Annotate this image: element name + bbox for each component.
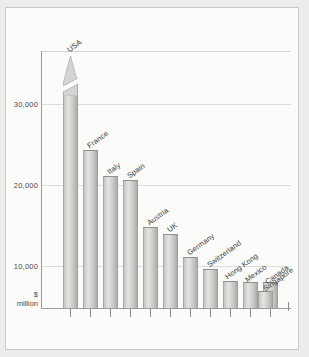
- bar-chart: 30,000 20,000 10,000 $ million USA Franc…: [0, 0, 309, 357]
- bar-italy[interactable]: [103, 176, 118, 308]
- x-tick-4: [130, 309, 131, 317]
- y-axis: [41, 51, 42, 308]
- x-tick-2: [90, 309, 91, 317]
- bar-label-france: France: [85, 129, 110, 150]
- gridline-top: [41, 51, 291, 52]
- x-tick-3: [110, 309, 111, 317]
- x-tick-1: [70, 309, 71, 317]
- x-tick-7: [190, 309, 191, 317]
- y-axis-unit-dollar: $: [2, 290, 38, 299]
- bar-france[interactable]: [83, 150, 98, 308]
- y-axis-unit-million: million: [2, 299, 38, 308]
- bar-label-spain: Spain: [125, 161, 146, 180]
- x-tick-8: [210, 309, 211, 317]
- x-tick-6: [170, 309, 171, 317]
- bar-singapore[interactable]: [258, 291, 273, 308]
- gridline-30000: [41, 104, 291, 105]
- x-tick-11: [270, 309, 271, 317]
- bar-spain[interactable]: [123, 180, 138, 308]
- bar-label-austria: Austria: [145, 206, 170, 227]
- gridline-20000: [41, 185, 291, 186]
- bar-label-uk: UK: [165, 221, 179, 235]
- bar-switzerland[interactable]: [203, 269, 218, 308]
- y-tick-label-10000: 10,000: [2, 262, 38, 271]
- bar-austria[interactable]: [143, 227, 158, 308]
- y-tick-label-30000: 30,000: [2, 100, 38, 109]
- x-tick-9: [230, 309, 231, 317]
- x-axis: [41, 308, 291, 309]
- figure-background: 30,000 20,000 10,000 $ million USA Franc…: [0, 0, 309, 357]
- bar-label-germany: Germany: [185, 231, 216, 257]
- bar-mexico[interactable]: [243, 282, 258, 308]
- x-tick-5: [150, 309, 151, 317]
- bar-label-italy: Italy: [105, 160, 122, 176]
- bar-usa-break-arrow: [61, 56, 80, 96]
- bar-usa[interactable]: [63, 85, 78, 308]
- x-tick-10: [250, 309, 251, 317]
- bar-hong-kong[interactable]: [223, 281, 238, 308]
- bar-uk[interactable]: [163, 234, 178, 308]
- x-tick-12: [288, 302, 289, 311]
- y-tick-label-20000: 20,000: [2, 181, 38, 190]
- bar-germany[interactable]: [183, 257, 198, 308]
- bar-cap-hong-kong: [223, 281, 238, 282]
